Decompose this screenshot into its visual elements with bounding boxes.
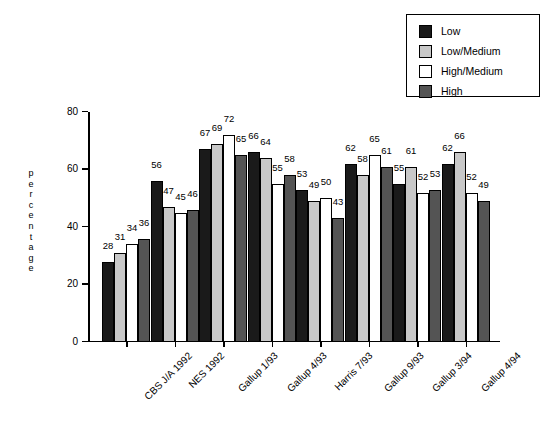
bar[interactable] — [126, 244, 138, 342]
bar[interactable] — [332, 218, 344, 342]
legend-item-label: High — [441, 85, 463, 98]
bar[interactable] — [235, 155, 247, 342]
bar[interactable] — [102, 262, 114, 343]
bar-value-label: 43 — [333, 196, 344, 207]
bar-value-label: 61 — [406, 145, 417, 156]
y-axis-title-letter: e — [24, 179, 38, 190]
bar[interactable] — [284, 175, 296, 342]
bar-value-label: 47 — [163, 185, 174, 196]
bar[interactable] — [114, 253, 126, 342]
legend-swatch-icon — [419, 45, 432, 58]
x-tick — [223, 342, 225, 347]
legend-item-label: High/Medium — [441, 65, 503, 78]
legend-swatch-icon — [419, 25, 432, 38]
bar-slot: 52 — [466, 112, 478, 342]
bar[interactable] — [248, 152, 260, 342]
bar-value-label: 52 — [418, 171, 429, 182]
x-tick — [126, 342, 128, 347]
y-axis-title-letter: g — [24, 253, 38, 264]
bar-group: 62665249 — [442, 112, 490, 342]
bar-slot: 52 — [417, 112, 429, 342]
bar[interactable] — [466, 193, 478, 343]
bar-value-label: 53 — [430, 168, 441, 179]
bar-value-label: 46 — [187, 188, 198, 199]
bar[interactable] — [199, 149, 211, 342]
x-tick-label: Harris 7/93 — [332, 350, 374, 392]
bar-value-label: 58 — [284, 153, 295, 164]
bar[interactable] — [308, 201, 320, 342]
y-tick: 20 — [82, 283, 88, 285]
bar-value-label: 62 — [345, 142, 356, 153]
bar[interactable] — [478, 201, 490, 342]
bar[interactable] — [417, 193, 429, 343]
legend-item-label: Low/Medium — [441, 45, 501, 58]
bar[interactable] — [429, 190, 441, 342]
x-tick — [175, 342, 177, 347]
bar[interactable] — [272, 184, 284, 342]
bar-group: 28313436 — [102, 112, 150, 342]
y-axis-title-letter: r — [24, 189, 38, 200]
bar-value-label: 69 — [212, 122, 223, 133]
bar[interactable] — [296, 190, 308, 342]
bar-value-label: 53 — [297, 168, 308, 179]
legend-item[interactable]: High/Medium — [419, 62, 539, 80]
bar[interactable] — [223, 135, 235, 342]
bar[interactable] — [320, 198, 332, 342]
bar-group: 62586561 — [345, 112, 393, 342]
bar[interactable] — [369, 155, 381, 342]
bar-slot: 45 — [175, 112, 187, 342]
y-axis-title-letter: e — [24, 263, 38, 274]
y-axis-title-letter: n — [24, 221, 38, 232]
bar-slot: 62 — [442, 112, 454, 342]
y-axis — [88, 112, 90, 342]
bar-slot: 58 — [284, 112, 296, 342]
y-tick: 60 — [82, 168, 88, 170]
bar-slot: 69 — [211, 112, 223, 342]
x-tick-label: CBS J/A 1992 — [142, 350, 194, 402]
y-tick-label: 60 — [67, 163, 78, 174]
bar[interactable] — [260, 158, 272, 342]
bar[interactable] — [454, 152, 466, 342]
x-tick — [320, 342, 322, 347]
y-tick-label: 0 — [72, 335, 78, 346]
bar[interactable] — [345, 164, 357, 342]
bar[interactable] — [211, 144, 223, 342]
bar[interactable] — [138, 239, 150, 343]
bar-value-label: 49 — [478, 179, 489, 190]
legend-item[interactable]: Low/Medium — [419, 42, 539, 60]
x-tick-label: Gallup 1/93 — [236, 350, 280, 394]
bar[interactable] — [151, 181, 163, 342]
bar[interactable] — [405, 167, 417, 342]
y-tick-label: 80 — [67, 105, 78, 116]
bar-value-label: 31 — [115, 231, 126, 242]
bar-slot: 61 — [405, 112, 417, 342]
plot-area: 020406080 283134365647454667697265666455… — [88, 112, 500, 342]
bar-slot: 28 — [102, 112, 114, 342]
bar-slot: 34 — [126, 112, 138, 342]
bar-slot: 62 — [345, 112, 357, 342]
bar[interactable] — [187, 210, 199, 342]
bar-slot: 53 — [429, 112, 441, 342]
x-tick — [272, 342, 274, 347]
y-axis-title-letter: p — [24, 168, 38, 179]
bar[interactable] — [357, 175, 369, 342]
bar[interactable] — [381, 167, 393, 342]
bar-value-label: 45 — [175, 191, 186, 202]
legend-swatch-icon — [419, 65, 432, 78]
x-tick — [466, 342, 468, 347]
bar-slot: 66 — [248, 112, 260, 342]
x-tick-label: Gallup 9/93 — [381, 350, 425, 394]
bar-value-label: 66 — [454, 130, 465, 141]
bar[interactable] — [442, 164, 454, 342]
bar-chart: LowLow/MediumHigh/MediumHigh percentage … — [0, 0, 551, 421]
bar-slot: 43 — [332, 112, 344, 342]
bar-slot: 65 — [235, 112, 247, 342]
bar[interactable] — [393, 184, 405, 342]
bar-value-label: 52 — [466, 171, 477, 182]
bar[interactable] — [163, 207, 175, 342]
legend-item[interactable]: High — [419, 82, 539, 100]
bar[interactable] — [175, 213, 187, 342]
legend-swatch-icon — [419, 85, 432, 98]
bar-value-label: 65 — [236, 133, 247, 144]
legend-item[interactable]: Low — [419, 22, 539, 40]
